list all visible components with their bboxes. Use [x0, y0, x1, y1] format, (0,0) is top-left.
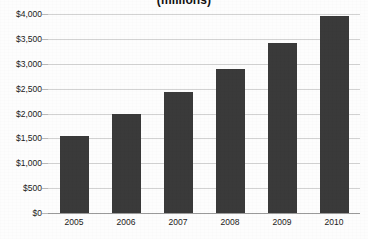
- y-axis-tick-label: $2,500: [2, 84, 42, 94]
- chart-title: (millions): [0, 0, 368, 7]
- bar-slot: [100, 14, 152, 213]
- bar: [164, 92, 193, 213]
- y-axis-tick: [42, 14, 48, 15]
- y-axis-tick-label: $0: [2, 208, 42, 218]
- x-axis-tick-label: 2005: [48, 217, 100, 227]
- x-axis-labels: 200520062007200820092010: [48, 217, 360, 227]
- y-axis-tick: [42, 89, 48, 90]
- y-axis-tick-label: $3,500: [2, 34, 42, 44]
- bar-series: [48, 14, 360, 213]
- bar: [60, 136, 89, 213]
- y-axis-tick-label: $3,000: [2, 59, 42, 69]
- y-axis-tick-label: $1,000: [2, 158, 42, 168]
- bar-slot: [48, 14, 100, 213]
- y-axis-tick: [42, 64, 48, 65]
- y-axis-tick-label: $500: [2, 183, 42, 193]
- y-axis-tick-label: $2,000: [2, 109, 42, 119]
- bar-chart: (millions) 200520062007200820092010 $0$5…: [0, 0, 368, 239]
- y-axis-tick-label: $1,500: [2, 133, 42, 143]
- y-axis-tick: [42, 188, 48, 189]
- y-axis-tick: [42, 138, 48, 139]
- bar: [268, 43, 297, 213]
- bar-slot: [308, 14, 360, 213]
- x-axis-tick-label: 2006: [100, 217, 152, 227]
- bar: [112, 114, 141, 213]
- x-axis-line: [48, 213, 360, 214]
- plot-area: [48, 14, 360, 213]
- y-axis-tick: [42, 114, 48, 115]
- x-axis-tick-label: 2008: [204, 217, 256, 227]
- bar: [320, 16, 349, 214]
- y-axis-tick-label: $4,000: [2, 9, 42, 19]
- y-axis-tick: [42, 163, 48, 164]
- x-axis-tick-label: 2007: [152, 217, 204, 227]
- x-axis-tick-label: 2010: [308, 217, 360, 227]
- y-axis-tick: [42, 39, 48, 40]
- bar-slot: [152, 14, 204, 213]
- bar-slot: [204, 14, 256, 213]
- y-axis-tick: [42, 213, 48, 214]
- bar: [216, 69, 245, 213]
- bar-slot: [256, 14, 308, 213]
- x-axis-tick-label: 2009: [256, 217, 308, 227]
